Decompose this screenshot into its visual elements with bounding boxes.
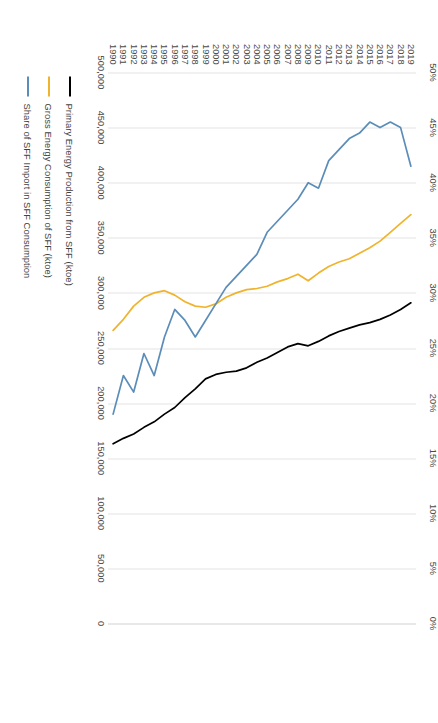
category-axis-tick: 2010 — [313, 44, 323, 64]
category-axis-tick: 2014 — [355, 44, 365, 64]
category-axis-tick: 2004 — [252, 44, 262, 64]
legend-swatch-icon — [69, 76, 71, 96]
secondary-axis-tick: 5% — [428, 561, 438, 574]
category-axis-tick: 1990 — [108, 44, 118, 64]
chart-rotated-frame: 0%5%10%15%20%25%30%35%40%45%50% 050,0001… — [0, 0, 438, 723]
series-line — [113, 214, 411, 330]
secondary-axis-tick: 50% — [428, 63, 438, 82]
category-axis-tick: 2012 — [334, 44, 344, 64]
plot-area — [108, 72, 416, 623]
secondary-axis-tick: 40% — [428, 173, 438, 192]
secondary-axis-tick: 30% — [428, 283, 438, 302]
category-axis-tick: 2006 — [272, 44, 282, 64]
secondary-axis-tick: 45% — [428, 118, 438, 137]
primary-axis-tick: 100,000 — [96, 496, 106, 530]
chart-canvas: 0%5%10%15%20%25%30%35%40%45%50% 050,0001… — [0, 0, 438, 723]
category-axis-tick: 2018 — [396, 44, 406, 64]
category-axis-tick: 1992 — [129, 44, 139, 64]
chart-legend: Primary Energy Production from SFF (ktoe… — [8, 76, 78, 621]
primary-axis-tick: 200,000 — [96, 386, 106, 420]
secondary-axis-tick: 15% — [428, 448, 438, 467]
category-axis-tick: 2016 — [375, 44, 385, 64]
category-axis-tick: 2013 — [344, 44, 354, 64]
category-axis-tick: 2007 — [283, 44, 293, 64]
secondary-axis-percent: 0%5%10%15%20%25%30%35%40%45%50% — [416, 72, 438, 623]
category-axis-tick: 2019 — [406, 44, 416, 64]
category-axis-tick: 2009 — [303, 44, 313, 64]
category-axis-tick: 2002 — [231, 44, 241, 64]
category-axis-tick: 2017 — [385, 44, 395, 64]
category-axis-tick: 2008 — [293, 44, 303, 64]
category-axis-tick: 2011 — [324, 44, 334, 64]
series-layer — [108, 72, 416, 623]
primary-axis-ktoe: 050,000100,000150,000200,000250,000300,0… — [82, 72, 106, 623]
series-line — [113, 122, 411, 414]
category-axis-tick: 2003 — [242, 44, 252, 64]
category-axis-tick: 1998 — [190, 44, 200, 64]
legend-label: Share of SFF Import in SFF Consumption — [23, 103, 34, 278]
category-axis-tick: 2005 — [262, 44, 272, 64]
series-line — [113, 302, 411, 443]
legend-item[interactable]: Share of SFF Import in SFF Consumption — [20, 76, 36, 621]
category-axis-tick: 2000 — [211, 44, 221, 64]
category-axis-years: 1990199119921993199419951996199719981999… — [108, 0, 416, 70]
primary-axis-tick: 250,000 — [96, 331, 106, 365]
primary-axis-tick: 350,000 — [96, 220, 106, 254]
category-axis-tick: 1991 — [118, 44, 128, 64]
legend-item[interactable]: Gross Energy Consumption of SFF (ktoe) — [41, 76, 57, 621]
primary-axis-tick: 500,000 — [96, 55, 106, 89]
secondary-axis-tick: 25% — [428, 338, 438, 357]
category-axis-tick: 2015 — [365, 44, 375, 64]
secondary-axis-tick: 35% — [428, 228, 438, 247]
primary-axis-tick: 300,000 — [96, 275, 106, 309]
category-axis-tick: 1999 — [201, 44, 211, 64]
category-axis-tick: 2001 — [221, 44, 231, 64]
category-axis-tick: 1995 — [159, 44, 169, 64]
primary-axis-tick: 150,000 — [96, 441, 106, 475]
category-axis-tick: 1994 — [149, 44, 159, 64]
primary-axis-tick: 0 — [96, 620, 106, 625]
legend-swatch-icon — [27, 76, 29, 96]
legend-swatch-icon — [48, 76, 50, 96]
category-axis-tick: 1993 — [139, 44, 149, 64]
legend-label: Gross Energy Consumption of SFF (ktoe) — [44, 103, 55, 277]
legend-label: Primary Energy Production from SFF (ktoe… — [65, 103, 76, 285]
category-axis-tick: 1996 — [170, 44, 180, 64]
legend-item[interactable]: Primary Energy Production from SFF (ktoe… — [62, 76, 78, 621]
secondary-axis-tick: 20% — [428, 393, 438, 412]
secondary-axis-tick: 0% — [428, 616, 438, 629]
category-axis-tick: 1997 — [180, 44, 190, 64]
primary-axis-tick: 50,000 — [96, 554, 106, 583]
secondary-axis-tick: 10% — [428, 503, 438, 522]
primary-axis-tick: 450,000 — [96, 110, 106, 144]
primary-axis-tick: 400,000 — [96, 165, 106, 199]
